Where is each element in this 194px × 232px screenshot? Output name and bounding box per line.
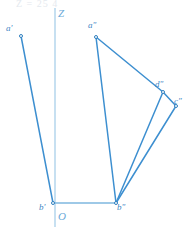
segment-group	[21, 36, 176, 203]
vertex-b-prime	[52, 202, 55, 205]
seg-a-prime-b-prime	[21, 36, 53, 203]
seg-a-double-prime-d-double-prime	[96, 37, 163, 92]
seg-a-double-prime-b-double-prime	[96, 37, 116, 203]
point-label-d-double-prime: d"	[155, 80, 163, 89]
vertex-a-double-prime	[95, 36, 98, 39]
z-axis-label: Z	[58, 8, 64, 19]
point-label-c-double-prime: c"	[174, 97, 182, 106]
point-label-b-double-prime: b"	[117, 203, 125, 212]
seg-c-double-prime-b-double-prime	[116, 106, 176, 203]
point-label-a-prime: a'	[6, 24, 12, 33]
point-label-b-prime: b'	[39, 203, 45, 212]
origin-label: O	[58, 211, 66, 222]
point-label-a-double-prime: a"	[88, 21, 96, 30]
drawing-canvas: Z = 25 4 a'b'a"b"d"c" Z O	[0, 0, 194, 232]
projection-drawing	[0, 0, 194, 232]
vertex-d-double-prime	[162, 91, 165, 94]
vertex-a-prime	[20, 35, 23, 38]
seg-d-double-prime-b-double-prime	[116, 92, 163, 203]
